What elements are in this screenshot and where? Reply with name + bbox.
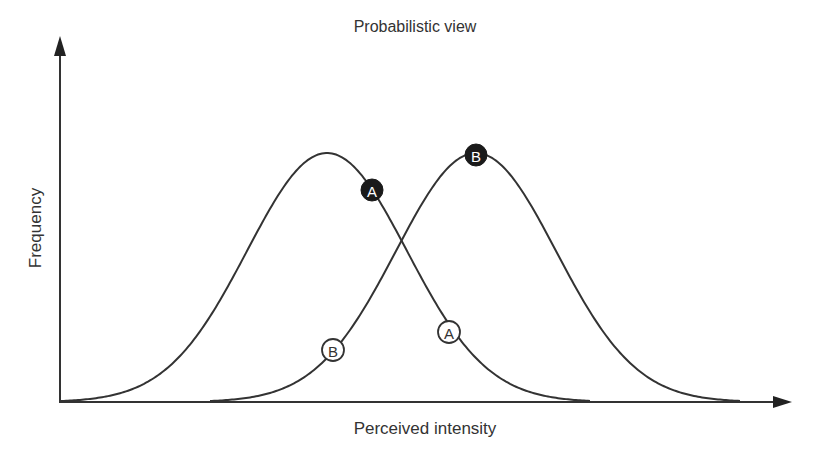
marker-label: A (444, 325, 454, 342)
marker-label: B (471, 148, 481, 165)
marker-a-open: A (438, 321, 460, 343)
y-axis-arrow-icon (54, 36, 66, 56)
marker-a-filled: A (361, 179, 383, 201)
marker-label: B (328, 343, 338, 360)
curve-b (210, 153, 740, 401)
x-axis-arrow-icon (773, 396, 792, 408)
plot-area: ABBA (0, 0, 814, 456)
marker-b-open: B (322, 339, 344, 361)
marker-b-filled: B (465, 144, 487, 166)
axes (54, 36, 792, 408)
markers: ABBA (322, 144, 487, 361)
marker-label: A (367, 183, 377, 200)
curve-a (60, 153, 590, 401)
